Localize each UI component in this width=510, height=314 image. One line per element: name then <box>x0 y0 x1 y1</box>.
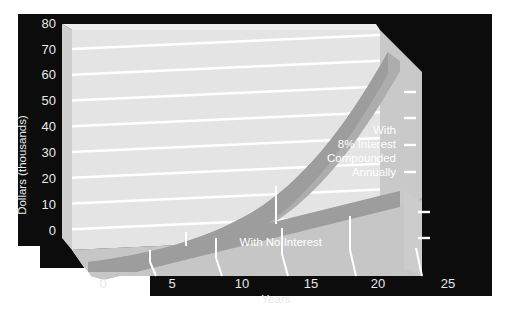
chart-screenshot: 80 70 60 50 40 30 20 10 0 Dollars (thous… <box>0 0 510 314</box>
x-tick-label-10: 10 <box>235 276 249 291</box>
annotation-no-interest: With No Interest <box>240 236 323 248</box>
compound-label-line-1: With <box>373 124 396 136</box>
y-tick-label-30: 30 <box>42 145 56 160</box>
y-tick-label-0: 0 <box>49 223 56 238</box>
y-axis-title: Dollars (thousands) <box>16 115 28 215</box>
x-tick-label-5: 5 <box>168 276 175 291</box>
y-tick-label-20: 20 <box>42 171 56 186</box>
back-wall-top-bevel <box>62 24 380 30</box>
x-tick-label-20: 20 <box>371 276 385 291</box>
compound-label-line-2: 8% Interest <box>338 138 397 150</box>
x-tick-label-25: 25 <box>441 276 455 291</box>
y-tick-label-60: 60 <box>42 67 56 82</box>
left-side-wall <box>62 24 72 250</box>
y-axis-tick-labels: 80 70 60 50 40 30 20 10 0 <box>42 16 56 238</box>
x-tick-label-0: 0 <box>99 276 106 291</box>
x-axis-title: Years <box>262 293 291 305</box>
y-tick-label-50: 50 <box>42 93 56 108</box>
compound-label-line-4: Annually <box>352 166 396 178</box>
y-tick-label-40: 40 <box>42 119 56 134</box>
compound-label-line-3: Compounded <box>327 152 396 164</box>
y-tick-label-10: 10 <box>42 197 56 212</box>
growth-area-chart: 80 70 60 50 40 30 20 10 0 Dollars (thous… <box>0 0 510 314</box>
x-tick-label-15: 15 <box>304 276 318 291</box>
y-tick-label-80: 80 <box>42 16 56 31</box>
y-tick-label-70: 70 <box>42 42 56 57</box>
